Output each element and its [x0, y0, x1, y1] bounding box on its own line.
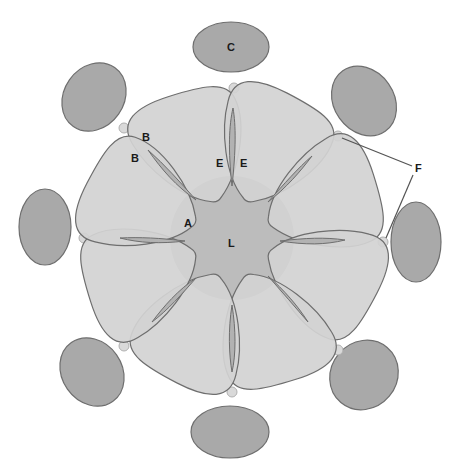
label-e-left: E	[216, 157, 223, 169]
label-b-lower: B	[131, 152, 139, 164]
diagram-canvas: C B B E E A L F	[0, 0, 462, 472]
outer-ellipse-left	[19, 189, 71, 265]
label-c: C	[227, 41, 235, 53]
label-a: A	[184, 217, 192, 229]
outer-ellipse-right	[391, 202, 441, 282]
label-f: F	[415, 162, 422, 174]
label-e-right: E	[240, 157, 247, 169]
label-b-upper: B	[142, 131, 150, 143]
label-l: L	[228, 237, 235, 249]
outer-ellipse-bottom	[191, 406, 269, 458]
